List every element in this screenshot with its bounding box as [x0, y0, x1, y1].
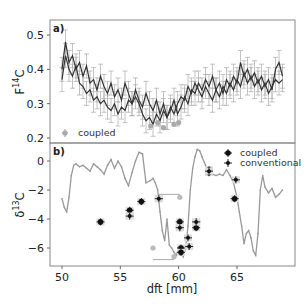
y-tick-label: 0.2	[27, 132, 45, 145]
legend-b-conventional-label: conventional	[240, 157, 301, 168]
series-line	[62, 56, 283, 125]
y-tick-label: 0.4	[27, 63, 45, 76]
gray-point	[171, 122, 176, 127]
panel-b-y-ticks: 0−2−4−6	[28, 155, 50, 255]
y-tick-label: −6	[28, 242, 44, 255]
x-tick-label: 50	[55, 271, 69, 284]
figure: a) 0.20.30.40.5 F14C coupled b) 0−2−4−6 …	[0, 0, 306, 307]
data-point	[178, 226, 182, 230]
data-point	[194, 220, 198, 224]
data-point	[207, 169, 211, 173]
gray-point	[148, 123, 153, 128]
y-tick-label: 0.3	[27, 98, 45, 111]
data-point	[139, 199, 145, 205]
y-tick-label: −4	[28, 213, 44, 226]
y-tick-label: 0.5	[27, 29, 45, 42]
gray-point	[177, 195, 182, 200]
legend-a-coupled-marker-icon	[62, 129, 68, 137]
y-tick-label: −2	[28, 184, 44, 197]
panel-b: b) 0−2−4−6 50556065 δ13C dft [mm] couple…	[12, 143, 301, 296]
ylabel-b-main: δ	[13, 211, 27, 218]
x-axis-label: dft [mm]	[147, 282, 198, 296]
panel-b-label: b)	[53, 146, 65, 157]
ylabel-a-sup: 14	[12, 78, 21, 88]
panel-a-label: a)	[53, 23, 64, 34]
data-point	[127, 208, 133, 214]
data-point	[232, 196, 238, 202]
gray-point	[176, 120, 181, 125]
legend-a: coupled	[62, 127, 116, 138]
panel-a-y-label: F14C	[12, 70, 27, 95]
data-point	[157, 197, 161, 201]
svg-text:F14C: F14C	[12, 70, 27, 95]
ylabel-a-tail: C	[13, 70, 27, 78]
data-point	[187, 245, 191, 249]
gray-point	[155, 120, 160, 125]
svg-text:δ13C: δ13C	[12, 192, 27, 217]
ylabel-b-sup: 13	[12, 200, 21, 210]
gray-point	[171, 254, 176, 259]
ylabel-b-tail: C	[13, 192, 27, 200]
data-point	[98, 219, 104, 225]
panel-b-coupled-points	[97, 166, 239, 256]
data-point	[193, 225, 199, 231]
gray-point	[150, 245, 155, 250]
data-point	[186, 236, 190, 240]
ylabel-a-main: F	[13, 88, 27, 95]
data-point	[128, 214, 132, 218]
x-tick-label: 65	[230, 271, 244, 284]
panel-a: a) 0.20.30.40.5 F14C coupled	[12, 20, 295, 145]
panel-b-y-label: δ13C	[12, 192, 27, 217]
legend-b-conventional-marker-icon	[224, 159, 232, 167]
y-tick-label: 0	[37, 155, 44, 168]
gray-point	[161, 125, 166, 130]
legend-b: coupled conventional	[224, 147, 301, 168]
panel-a-y-ticks: 0.20.30.40.5	[27, 29, 51, 145]
data-point	[178, 250, 184, 256]
panel-b-conventional-points	[126, 168, 240, 250]
data-point	[177, 219, 183, 225]
data-point	[234, 178, 238, 182]
legend-b-coupled-marker-icon	[224, 149, 232, 157]
legend-a-coupled-label: coupled	[78, 127, 116, 138]
panel-a-errorbars	[60, 30, 286, 136]
x-tick-label: 55	[113, 271, 127, 284]
